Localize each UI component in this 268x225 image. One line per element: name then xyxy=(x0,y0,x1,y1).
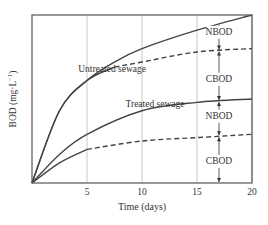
arrow-head-icon xyxy=(217,46,221,50)
annotation-label: Treated sewage xyxy=(126,99,185,109)
series-line-solid xyxy=(32,67,115,183)
annotation-label: NBOD xyxy=(206,27,233,37)
annotation-label: NBOD xyxy=(206,111,233,121)
x-tick-label: 5 xyxy=(85,187,90,197)
y-axis-label-close: ) xyxy=(8,71,19,74)
arrow-head-icon xyxy=(217,131,221,135)
x-tick-label: 15 xyxy=(192,187,202,197)
arrow-head-icon xyxy=(217,52,221,56)
annotation-label: CBOD xyxy=(206,156,233,166)
arrow-head-icon xyxy=(217,137,221,141)
y-axis-label: BOD (mg·L−1) xyxy=(6,71,19,128)
bod-chart: 5101520 Untreated sewageTreated sewageNB… xyxy=(0,0,268,225)
arrow-head-icon xyxy=(217,96,221,100)
y-axis-label-sup: −1 xyxy=(6,74,13,81)
x-tick-labels: 5101520 xyxy=(85,187,257,197)
annotation-label: CBOD xyxy=(206,74,233,84)
annotations: Untreated sewageTreated sewageNBODCBODNB… xyxy=(78,26,232,166)
x-axis-label: Time (days) xyxy=(118,201,166,213)
y-axis-label-main: BOD (mg·L xyxy=(8,80,19,127)
arrow-head-icon xyxy=(217,102,221,106)
series-line-dashed xyxy=(87,134,252,149)
x-tick-label: 20 xyxy=(247,187,257,197)
annotation-label: Untreated sewage xyxy=(78,64,146,74)
arrow-head-icon xyxy=(217,178,221,182)
x-tick-label: 10 xyxy=(137,187,147,197)
